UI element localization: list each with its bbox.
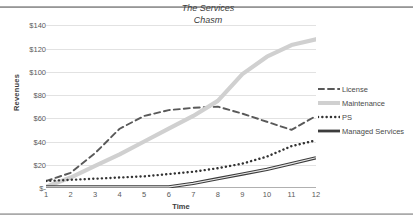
- x-axis-tick: 7: [182, 190, 204, 199]
- y-axis-tick: $40: [10, 137, 46, 146]
- bottom-divider: [0, 213, 413, 215]
- legend-swatch-maintenance: [318, 98, 340, 108]
- x-axis-tick: 11: [280, 190, 302, 199]
- x-axis-tick: 9: [231, 190, 253, 199]
- y-axis-tick: $120: [10, 44, 46, 53]
- legend-item-ps[interactable]: PS: [318, 110, 413, 124]
- chasm-annotation-line2: Chasm: [148, 14, 268, 26]
- x-axis-tick: 5: [133, 190, 155, 199]
- legend-item-managed-services[interactable]: Managed Services: [318, 124, 413, 138]
- legend-label-ps: PS: [342, 113, 352, 122]
- series-line-maintenance: [46, 39, 316, 187]
- y-axis-tick: $80: [10, 91, 46, 100]
- y-axis-tick-labels: $140$120$100$80$60$40$20$-: [10, 16, 46, 188]
- x-axis-tick-labels: 123456789101112: [46, 190, 316, 202]
- legend-item-license[interactable]: License: [318, 82, 413, 96]
- x-axis-tick: 3: [84, 190, 106, 199]
- x-axis-tick: 10: [256, 190, 278, 199]
- legend-swatch-managed-services: [318, 126, 340, 136]
- legend-label-maintenance: Maintenance: [342, 99, 385, 108]
- x-axis-tick: 8: [207, 190, 229, 199]
- legend-label-license: License: [342, 85, 368, 94]
- legend-item-maintenance[interactable]: Maintenance: [318, 96, 413, 110]
- legend-label-managed-services: Managed Services: [342, 127, 404, 136]
- x-axis-tick: 6: [158, 190, 180, 199]
- chasm-annotation-line1: The Services: [148, 2, 268, 14]
- services-chasm-chart: Revenues $140$120$100$80$60$40$20$- The …: [0, 0, 413, 215]
- chart-legend: LicenseMaintenancePSManaged Services: [318, 82, 413, 138]
- y-axis-tick: $20: [10, 160, 46, 169]
- x-axis-tick: 1: [35, 190, 57, 199]
- y-axis-tick: $60: [10, 114, 46, 123]
- legend-swatch-license: [318, 84, 340, 94]
- x-axis-tick: 2: [60, 190, 82, 199]
- chasm-annotation: The Services Chasm: [148, 2, 268, 26]
- y-axis-tick: $100: [10, 67, 46, 76]
- x-axis-tick: 12: [305, 190, 327, 199]
- legend-swatch-ps: [318, 112, 340, 122]
- x-axis-tick: 4: [109, 190, 131, 199]
- series-lines: [46, 16, 316, 188]
- plot-area: [46, 16, 316, 188]
- x-axis-title: Time: [46, 202, 316, 211]
- y-axis-tick: $140: [10, 21, 46, 30]
